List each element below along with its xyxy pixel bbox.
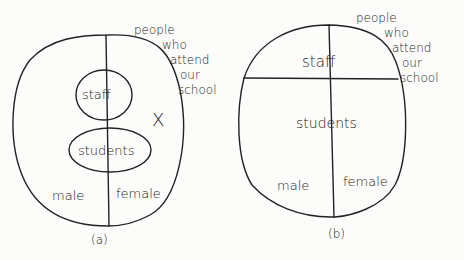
svg-text:school: school (178, 83, 216, 97)
svg-text:people: people (134, 23, 175, 37)
diagram-b: staff students male female (b) people wh… (239, 11, 439, 241)
caption-b: (b) (328, 227, 345, 241)
outer-label-b: people who attend our school (356, 11, 438, 85)
gender-divider-a (106, 35, 109, 226)
students-label-a: students (78, 143, 134, 158)
caption-a: (a) (91, 233, 108, 247)
staff-label-b: staff (302, 53, 336, 71)
male-label-a: male (52, 188, 84, 203)
svg-text:people: people (356, 11, 397, 25)
outer-label-a: people who attend our school (134, 23, 216, 97)
staff-label-a: staff (82, 87, 111, 102)
staff-student-divider-b (244, 78, 398, 79)
female-label-a: female (116, 186, 161, 201)
svg-text:our: our (180, 68, 200, 82)
svg-text:attend: attend (392, 41, 431, 55)
female-label-b: female (343, 174, 388, 189)
diagram-canvas: staff students male female X (a) people … (0, 0, 464, 260)
x-mark: X (152, 109, 164, 130)
svg-text:our: our (402, 56, 422, 70)
svg-text:who: who (384, 26, 409, 40)
svg-text:attend: attend (170, 53, 209, 67)
diagram-a: staff students male female X (a) people … (13, 23, 217, 247)
students-label-b: students (296, 115, 357, 131)
svg-text:who: who (162, 38, 187, 52)
svg-text:school: school (400, 71, 438, 85)
male-label-b: male (277, 178, 309, 193)
